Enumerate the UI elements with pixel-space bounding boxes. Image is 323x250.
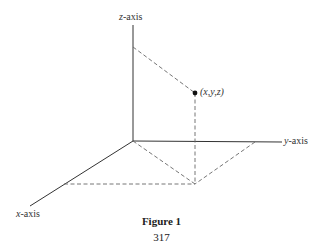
y-axis-label: y-axis bbox=[284, 136, 308, 146]
figure-title: Figure 1 bbox=[0, 216, 323, 227]
x-axis-line bbox=[30, 141, 133, 206]
z-axis-label: z-axis bbox=[119, 12, 142, 22]
dash-y-to-base bbox=[195, 142, 255, 184]
dash-z-to-point bbox=[133, 47, 195, 93]
point-label: (x,y,z) bbox=[200, 87, 224, 97]
dash-origin-to-base bbox=[133, 141, 195, 184]
point-xyz bbox=[193, 91, 198, 96]
page-number: 317 bbox=[0, 232, 323, 243]
y-axis-line bbox=[133, 141, 282, 142]
coordinate-diagram bbox=[0, 0, 323, 250]
